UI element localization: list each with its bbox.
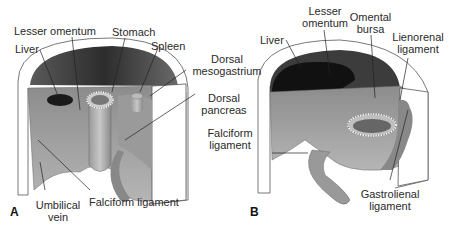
label-a-umbilical-vein: Umbilical vein — [33, 199, 83, 223]
label-a-dorsal-pancreas: Dorsal pancreas — [199, 92, 249, 116]
label-a-stomach: Stomach — [112, 26, 155, 38]
label-b-lienorenal-ligament: Lienorenal ligament — [388, 31, 448, 55]
label-b-lesser-omentum: Lesser omentum — [300, 5, 350, 29]
label-a-dorsal-mesogastrium: Dorsal mesogastrium — [192, 53, 262, 77]
panel-b-drawing — [258, 40, 428, 204]
label-b-gastrolienal-ligament: Gastrolienal ligament — [355, 188, 425, 212]
label-a-liver: Liver — [15, 43, 39, 55]
panel-letter-b: B — [250, 205, 259, 219]
label-b-omental-bursa: Omental bursa — [348, 11, 393, 35]
label-a-lesser-omentum: Lesser omentum — [14, 25, 96, 37]
label-a-spleen: Spleen — [151, 40, 185, 52]
panel-a-drawing — [18, 38, 188, 204]
label-b-falciform-ligament: Falciform ligament — [205, 127, 255, 151]
label-a-falciform-ligament: Falciform ligament — [89, 196, 179, 208]
label-b-liver: Liver — [260, 34, 284, 46]
panel-letter-a: A — [10, 205, 19, 219]
